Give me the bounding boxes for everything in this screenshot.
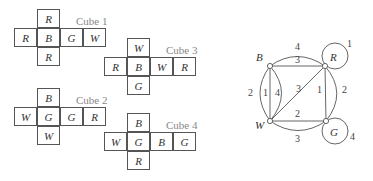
edge-label-bw-arc-left: 2: [248, 87, 253, 98]
node-label-w: W: [255, 119, 265, 131]
edge-label-rg-straight: 1: [317, 84, 322, 95]
edge-label-br-arc: 4: [295, 41, 300, 52]
node-label-r: R: [329, 51, 337, 63]
edge-label-wg-straight: 2: [295, 108, 300, 119]
node-r: [322, 63, 327, 68]
node-label-g: G: [330, 126, 338, 138]
edge-label-wr-diagonal: 3: [296, 83, 301, 94]
edge-label-br-straight: 3: [295, 54, 300, 65]
edge-label-g-loop: 4: [350, 131, 355, 142]
node-label-b: B: [256, 51, 263, 63]
node-w: [267, 118, 272, 123]
edge-label-bw-arc-inner: 4: [275, 87, 280, 98]
edge-wg-arc: [270, 121, 326, 131]
edge-label-rg-arc: 2: [342, 84, 347, 95]
color-graph: B R W G 4 3 1 2 1 4 3 1 2 2 3 4: [0, 0, 373, 181]
edge-rg-arc: [325, 66, 337, 121]
edge-label-bw-straight: 1: [263, 87, 268, 98]
node-b: [267, 63, 272, 68]
edge-rg-straight: [325, 66, 326, 121]
edge-label-r-loop: 1: [347, 38, 352, 49]
edge-label-wg-arc: 3: [295, 133, 300, 144]
node-g: [323, 118, 328, 123]
